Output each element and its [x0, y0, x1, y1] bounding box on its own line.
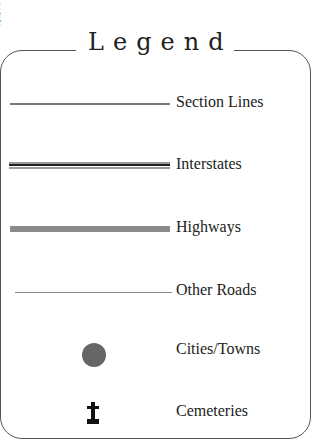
legend-label: Cities/Towns — [176, 340, 260, 358]
legend-label: Interstates — [176, 155, 242, 173]
section-line-symbol — [10, 103, 170, 105]
legend-label: Cemeteries — [176, 402, 248, 420]
highway-symbol — [10, 226, 170, 232]
cemetery-cross-icon — [86, 402, 100, 424]
city-dot-icon — [82, 343, 106, 367]
legend-title: Legend — [88, 28, 233, 56]
legend-label: Section Lines — [176, 93, 264, 111]
legend-label: Highways — [176, 218, 241, 236]
side-text-label: points — [0, 2, 3, 27]
clipped-side-text: points — [0, 2, 4, 32]
interstate-symbol — [9, 162, 170, 169]
legend-box — [0, 50, 311, 439]
other-road-symbol — [15, 292, 172, 293]
legend-label: Other Roads — [176, 281, 256, 299]
